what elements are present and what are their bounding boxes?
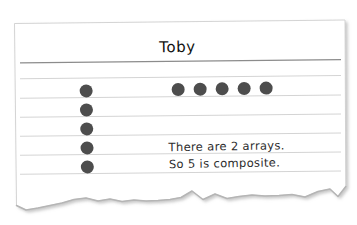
- array-dot: [216, 82, 229, 95]
- array-dot: [81, 160, 94, 173]
- array-dot: [80, 122, 93, 135]
- array-dot: [80, 84, 93, 97]
- paper-content: Toby There are 2 arrays. So 5 is composi…: [0, 0, 357, 225]
- array-dot: [80, 103, 93, 116]
- array-dot: [172, 83, 185, 96]
- array-dot: [194, 83, 207, 96]
- worksheet-scene: Toby There are 2 arrays. So 5 is composi…: [0, 0, 357, 225]
- array-dot: [260, 82, 273, 95]
- array-dot: [238, 82, 251, 95]
- answer-line-1: There are 2 arrays.: [168, 138, 284, 154]
- array-dot: [80, 141, 93, 154]
- answer-line-2: So 5 is composite.: [169, 155, 281, 171]
- student-name-heading: Toby: [0, 35, 356, 59]
